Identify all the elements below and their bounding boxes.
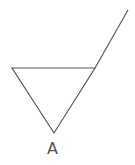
- vertex-label-a: A: [47, 141, 58, 157]
- diagram-canvas: [0, 0, 135, 165]
- extension-line: [95, 10, 128, 68]
- inverted-triangle: [12, 68, 95, 133]
